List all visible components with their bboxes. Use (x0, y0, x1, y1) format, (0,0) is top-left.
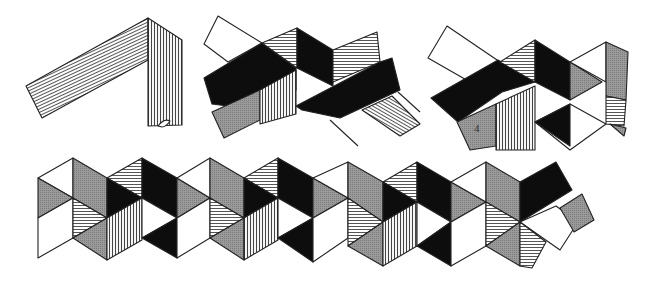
stage-4-cube-strip (38, 158, 594, 268)
folding-diagram: 4 (0, 0, 656, 284)
face-number-label: 4 (474, 122, 480, 134)
stage-3-partial-hex: 4 (428, 26, 628, 150)
stage-1-l-fold (26, 18, 182, 127)
stage-2-cross (204, 16, 420, 146)
